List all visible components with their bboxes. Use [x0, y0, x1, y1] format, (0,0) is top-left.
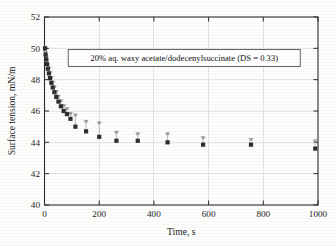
data-point-marker — [46, 67, 50, 71]
data-point-marker — [56, 100, 60, 104]
data-point-marker — [43, 46, 47, 50]
error-bar-upper-marker — [69, 112, 72, 115]
data-point-marker — [68, 117, 72, 121]
y-tick-label: 48 — [31, 75, 41, 85]
data-point-marker — [48, 76, 52, 80]
data-point-marker — [47, 71, 51, 75]
data-point-marker — [45, 62, 49, 66]
data-point-marker — [165, 140, 169, 144]
data-point-marker — [249, 143, 253, 147]
data-point-marker — [52, 90, 56, 94]
error-bar-upper-marker — [85, 120, 88, 123]
data-point-marker — [73, 125, 77, 129]
error-bar-upper-marker — [202, 136, 205, 139]
data-point-marker — [84, 129, 88, 133]
y-tick-label: 46 — [31, 106, 41, 116]
x-tick-label: 200 — [92, 209, 106, 219]
annotation-label: 20% aq. waxy acetate/dodecenylsuccinate … — [90, 53, 278, 63]
y-tick-label: 52 — [31, 12, 41, 22]
y-tick-label: 50 — [31, 44, 41, 54]
error-bar-upper-marker — [249, 138, 252, 141]
x-tick-label: 1000 — [309, 209, 328, 219]
data-point-marker — [43, 53, 47, 57]
data-point-marker — [65, 112, 69, 116]
data-point-marker — [97, 135, 101, 139]
x-tick-label: 0 — [42, 209, 47, 219]
data-point-marker — [114, 139, 118, 143]
error-bar-upper-marker — [98, 122, 101, 125]
error-bar-upper-marker — [136, 133, 139, 136]
data-point-marker — [44, 57, 48, 61]
data-point-marker — [49, 81, 53, 85]
y-tick-label: 42 — [31, 169, 41, 179]
data-point-marker — [59, 104, 63, 108]
error-bar-upper-marker — [314, 140, 317, 143]
x-tick-label: 800 — [256, 209, 270, 219]
data-point-marker — [313, 147, 317, 151]
figure-container: 4042444648505202004006008001000Time, sSu… — [0, 0, 336, 246]
y-tick-label: 44 — [31, 138, 41, 148]
x-tick-label: 600 — [202, 209, 216, 219]
x-tick-label: 400 — [147, 209, 161, 219]
error-bar-upper-marker — [74, 114, 77, 117]
y-tick-label: 40 — [31, 200, 41, 210]
data-point-marker — [54, 95, 58, 99]
error-bar-upper-marker — [166, 133, 169, 136]
error-bar-upper-marker — [65, 107, 68, 110]
y-axis-title: Surface tension, mN/m — [6, 66, 17, 155]
surface-tension-scatter-chart: 4042444648505202004006008001000Time, sSu… — [0, 0, 336, 246]
data-point-marker — [136, 139, 140, 143]
error-bar-upper-marker — [115, 131, 118, 134]
data-point-marker — [51, 85, 55, 89]
data-point-marker — [201, 143, 205, 147]
x-axis-title: Time, s — [167, 226, 196, 237]
